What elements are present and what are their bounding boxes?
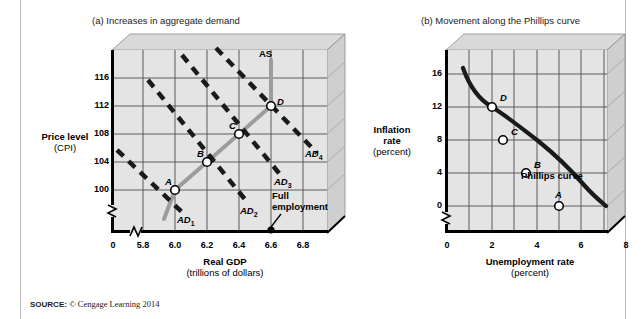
figure-frame: (a) Increases in aggregate demand xyxy=(0,0,642,319)
full-employment-dot xyxy=(267,226,274,233)
full-employment-label: Full employment xyxy=(272,190,328,212)
panel-a-xtick-0: 0 xyxy=(103,240,123,250)
panel-a-ytick-104: 104 xyxy=(87,156,109,166)
panel-a-xtick-60: 6.0 xyxy=(163,240,187,250)
panel-b-xtick-8: 8 xyxy=(616,240,636,250)
phillips-curve-label: Phillips curve xyxy=(521,170,583,181)
panel-a-xtick-62: 6.2 xyxy=(195,240,219,250)
panel-a-right-wall xyxy=(327,34,345,233)
ad2-label: AD2 xyxy=(240,205,258,218)
point-b-label-panel-a: B xyxy=(197,148,204,159)
panel-a-ytick-116: 116 xyxy=(87,72,109,82)
panel-a-xtick-66: 6.6 xyxy=(259,240,283,250)
panel-b-xtick-6: 6 xyxy=(571,240,591,250)
ad1-label: AD1 xyxy=(177,214,195,227)
panel-a-xtick-64: 6.4 xyxy=(227,240,251,250)
panel-b-ytick-12: 12 xyxy=(420,101,442,111)
point-d-marker-panel-a xyxy=(267,102,276,111)
panel-a-ytick-112: 112 xyxy=(87,100,109,110)
panel-b-xtick-0: 0 xyxy=(437,240,457,250)
panel-b-ytick-0: 0 xyxy=(420,200,442,210)
panel-b-ytick-16: 16 xyxy=(420,68,442,78)
panel-b-top-wall xyxy=(446,34,625,50)
source-prefix: SOURCE: xyxy=(30,300,67,309)
panel-a-xtick-58: 5.8 xyxy=(131,240,155,250)
panel-a-top-wall xyxy=(112,34,345,50)
as-curve-label: AS xyxy=(259,48,272,59)
point-c-label-panel-b: C xyxy=(511,126,518,137)
panel-b-title: (b) Movement along the Phillips curve xyxy=(421,15,580,26)
point-a-label-panel-a: A xyxy=(165,176,172,187)
panel-a-ytick-100: 100 xyxy=(87,184,109,194)
ad3-label: AD3 xyxy=(274,176,292,189)
panel-b-xtick-4: 4 xyxy=(527,240,547,250)
point-b-label-panel-b: B xyxy=(534,159,541,170)
source-text: © Cengage Learning 2014 xyxy=(69,299,159,309)
point-c-marker-panel-b xyxy=(499,136,508,145)
panel-a-x-axis-label: Real GDP (trillions of dollars) xyxy=(170,256,280,278)
panel-b-ytick-4: 4 xyxy=(420,167,442,177)
point-d-label-panel-a: D xyxy=(277,96,284,107)
panel-b-xtick-2: 2 xyxy=(482,240,502,250)
source-credit: SOURCE: © Cengage Learning 2014 xyxy=(30,299,159,309)
point-a-label-panel-b: A xyxy=(555,189,562,200)
point-a-marker-panel-b xyxy=(555,202,564,211)
ad4-label: AD4 xyxy=(305,148,323,161)
panel-b-ytick-8: 8 xyxy=(420,134,442,144)
point-d-marker-panel-b xyxy=(488,103,497,112)
panel-a-ytick-108: 108 xyxy=(87,128,109,138)
panel-b-x-axis-label: Unemployment rate (percent) xyxy=(450,256,610,278)
panel-a-xtick-68: 6.8 xyxy=(291,240,315,250)
point-c-label-panel-a: C xyxy=(229,120,236,131)
point-d-label-panel-b: D xyxy=(500,92,507,103)
